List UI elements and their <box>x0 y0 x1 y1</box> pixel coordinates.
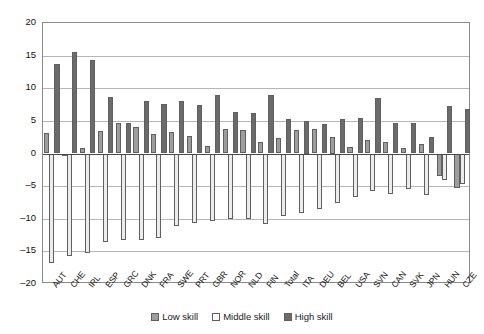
bar-high <box>429 137 434 154</box>
bar-group <box>401 23 416 282</box>
bar-middle <box>406 154 411 190</box>
legend-label: Middle skill <box>223 312 269 323</box>
bar-group <box>44 23 59 282</box>
bar-group <box>98 23 113 282</box>
bar-group <box>62 23 77 282</box>
bar-low <box>116 123 121 153</box>
bar-low <box>365 140 370 153</box>
bar-low <box>151 134 156 154</box>
bar-middle <box>156 154 161 238</box>
bar-high <box>251 113 256 153</box>
bar-middle <box>210 154 215 221</box>
bar-low <box>276 138 281 154</box>
zero-line <box>43 154 469 155</box>
bar-high <box>340 119 345 154</box>
bar-low <box>98 131 103 153</box>
bar-middle <box>424 154 429 196</box>
bar-high <box>144 101 149 153</box>
bar-group <box>365 23 380 282</box>
bar-middle <box>228 154 233 219</box>
bar-low <box>133 127 138 153</box>
y-axis-tick-label: –10 <box>0 213 36 223</box>
y-axis-tick-label: 10 <box>0 82 36 92</box>
bar-high <box>179 101 184 153</box>
bar-middle <box>85 154 90 253</box>
bar-middle <box>246 154 251 219</box>
bar-high <box>358 118 363 153</box>
bar-low <box>187 136 192 154</box>
legend-swatch-middle-icon <box>212 313 220 321</box>
legend-item-middle: Middle skill <box>212 311 269 323</box>
bar-group <box>240 23 255 282</box>
bar-group <box>151 23 166 282</box>
bar-group <box>116 23 131 282</box>
legend-label: High skill <box>295 312 333 323</box>
bar-middle <box>335 154 340 204</box>
bar-middle <box>460 154 465 184</box>
bar-middle <box>121 154 126 241</box>
y-axis-tick-label: 15 <box>0 50 36 60</box>
bar-high <box>322 124 327 153</box>
bar-group <box>258 23 273 282</box>
y-axis-tick-label: 0 <box>0 148 36 158</box>
bar-low <box>258 142 263 154</box>
legend-swatch-low-icon <box>151 313 159 321</box>
bar-middle <box>49 154 54 264</box>
bar-group <box>330 23 345 282</box>
legend-item-low: Low skill <box>151 311 198 323</box>
bar-low <box>223 129 228 154</box>
bar-low <box>169 132 174 154</box>
bar-high <box>90 60 95 154</box>
legend-item-high: High skill <box>284 311 333 323</box>
bar-middle <box>263 154 268 224</box>
bar-middle <box>281 154 286 217</box>
bar-low <box>383 142 388 153</box>
bar-group <box>205 23 220 282</box>
bars-layer <box>43 23 469 282</box>
bar-high <box>393 123 398 153</box>
bar-high <box>268 95 273 153</box>
bar-group <box>347 23 362 282</box>
bar-middle <box>317 154 322 209</box>
bar-group <box>133 23 148 282</box>
bar-low <box>454 154 459 189</box>
bar-group <box>276 23 291 282</box>
bar-high <box>72 52 77 154</box>
bar-high <box>54 64 59 153</box>
bar-high <box>215 95 220 153</box>
bar-group <box>383 23 398 282</box>
bar-low <box>240 130 245 153</box>
bar-middle <box>103 154 108 243</box>
bar-low <box>419 144 424 153</box>
bar-group <box>80 23 95 282</box>
legend-swatch-high-icon <box>284 313 292 321</box>
bar-low <box>437 154 442 177</box>
bar-group <box>312 23 327 282</box>
plot-area <box>42 22 470 283</box>
grouped-bar-chart: 20151050–5–10–15–20 AUTCHEIRLESPGRCDNKFR… <box>0 0 484 334</box>
bar-high <box>108 97 113 154</box>
bar-group <box>294 23 309 282</box>
bar-group <box>187 23 202 282</box>
bar-middle <box>353 154 358 197</box>
bar-low <box>330 137 335 153</box>
bar-high <box>286 119 291 154</box>
bar-middle <box>139 154 144 240</box>
bar-high <box>161 104 166 154</box>
bar-high <box>304 121 309 154</box>
y-axis-tick-label: –15 <box>0 245 36 255</box>
bar-high <box>447 106 452 154</box>
bar-low <box>44 133 49 153</box>
bar-middle <box>174 154 179 226</box>
bar-group <box>169 23 184 282</box>
legend-label: Low skill <box>162 312 198 323</box>
bar-group <box>454 23 469 282</box>
bar-group <box>437 23 452 282</box>
bar-middle <box>388 154 393 194</box>
bar-high <box>197 105 202 153</box>
bar-middle <box>299 154 304 213</box>
bar-low <box>294 130 299 153</box>
bar-middle <box>67 154 72 256</box>
bar-high <box>233 112 238 153</box>
bar-low <box>347 147 352 154</box>
